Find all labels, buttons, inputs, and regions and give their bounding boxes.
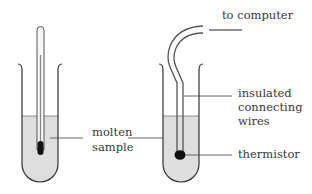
thermistor-label: thermistor bbox=[238, 147, 300, 161]
wires-label-line1: insulated bbox=[238, 86, 292, 100]
right-tube-liquid bbox=[163, 116, 199, 182]
molten-sample-label-line1: molten bbox=[92, 125, 133, 139]
diagram-canvas: molten sample to computer insulated conn… bbox=[0, 0, 312, 194]
molten-sample-label-line2: sample bbox=[92, 140, 134, 154]
thermometer-icon bbox=[37, 27, 44, 156]
wires-label-line2: connecting bbox=[238, 100, 303, 114]
thermometer-bulb bbox=[38, 141, 44, 155]
wires-label-line3: wires bbox=[238, 114, 270, 128]
right-test-tube bbox=[159, 64, 203, 182]
apparatus-diagram: molten sample to computer insulated conn… bbox=[0, 0, 312, 194]
thermistor-bead-icon bbox=[175, 150, 186, 160]
to-computer-label: to computer bbox=[222, 8, 294, 22]
molten-sample-label-group: molten sample bbox=[50, 125, 167, 154]
